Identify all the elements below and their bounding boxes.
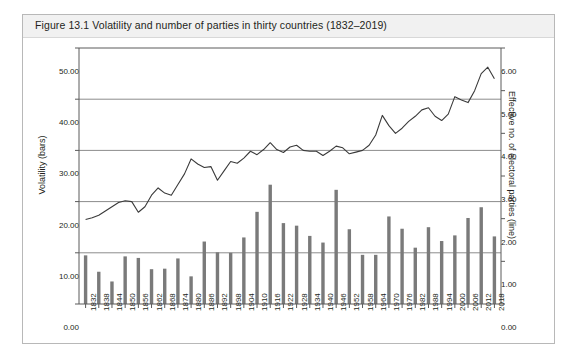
x-tick-label: 1982 [418,293,427,311]
x-tick-label: 1832 [89,293,98,311]
x-tick-label: 1874 [181,293,190,311]
x-tick-label: 1988 [431,293,440,311]
x-tick-label: 2000 [458,293,467,311]
x-tick-label: 1880 [194,293,203,311]
x-tick-label: 1940 [326,293,335,311]
x-tick-label: 1904 [247,293,256,311]
figure-caption-band: Figure 13.1 Volatility and number of par… [23,15,554,38]
x-tick-label: 2006 [471,293,480,311]
x-tick-label: 1952 [352,293,361,311]
x-tick-label: 1970 [392,293,401,311]
x-tick-label: 1838 [102,293,111,311]
x-tick-label: 1844 [115,293,124,311]
x-tick-label: 1862 [155,293,164,311]
x-tick-label: 1886 [207,293,216,311]
x-tick-label: 1898 [234,293,243,311]
x-tick-label: 1976 [405,293,414,311]
x-tick-label: 1928 [300,293,309,311]
x-tick-label: 1850 [128,293,137,311]
plot-area: Volatility (bars) Effective no. of elect… [23,38,554,344]
x-tick-label: 1868 [168,293,177,311]
figure-caption: Figure 13.1 Volatility and number of par… [35,19,387,31]
x-tick-label: 2018 [497,293,506,311]
x-tick-label: 1964 [379,293,388,311]
figure-container: Figure 13.1 Volatility and number of par… [22,14,555,344]
x-tick-label: 2012 [484,293,493,311]
x-tick-label: 1958 [366,293,375,311]
x-tick-label: 1916 [273,293,282,311]
x-tick-label: 1934 [313,293,322,311]
x-tick-label: 1856 [141,293,150,311]
x-tick-label: 1946 [339,293,348,311]
x-tick-label: 1922 [286,293,295,311]
x-tick-label: 1910 [260,293,269,311]
x-tick-label: 1892 [220,293,229,311]
x-tick-label: 1994 [445,293,454,311]
x-axis-labels: 1832183818441850185618621868187418801886… [23,38,554,344]
